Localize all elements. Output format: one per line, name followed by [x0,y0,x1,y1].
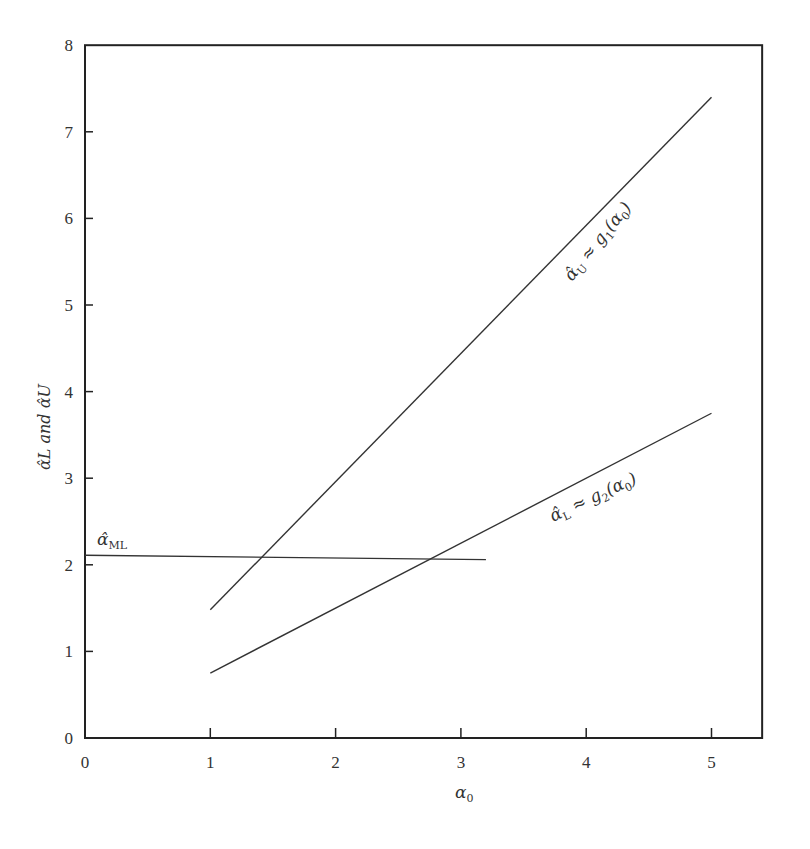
y-axis-ticks: 012345678 [65,36,94,748]
y-tick-label: 2 [65,556,74,575]
x-axis-ticks: 012345 [81,728,716,772]
ml-estimate-line [85,555,486,559]
y-tick-label: 6 [65,209,74,228]
y-tick-label: 4 [65,383,74,402]
upper-line-annotation: α̂U ≈ g1(α0) [560,198,638,287]
y-tick-label: 7 [65,123,74,142]
data-series [85,97,712,673]
x-tick-label: 0 [81,753,90,772]
ml-line-annotation: α̂ML [97,529,128,552]
y-axis-label: α̂L and α̂U [35,384,54,470]
y-tick-label: 5 [65,296,74,315]
x-tick-label: 5 [707,753,716,772]
x-tick-label: 1 [206,753,215,772]
lower-bound-line [210,413,711,673]
y-tick-label: 3 [65,469,74,488]
x-axis-label: α0 [455,782,473,805]
y-tick-label: 0 [65,729,74,748]
x-tick-label: 3 [457,753,466,772]
x-tick-label: 4 [582,753,591,772]
y-tick-label: 1 [65,642,74,661]
lower-line-annotation: α̂L ≈ g2(α0) [546,468,640,528]
chart-canvas: 012345678 012345 α0 α̂L and α̂U α̂U ≈ g1… [0,0,810,849]
upper-bound-line [210,97,711,610]
y-tick-label: 8 [65,36,74,55]
x-tick-label: 2 [331,753,340,772]
